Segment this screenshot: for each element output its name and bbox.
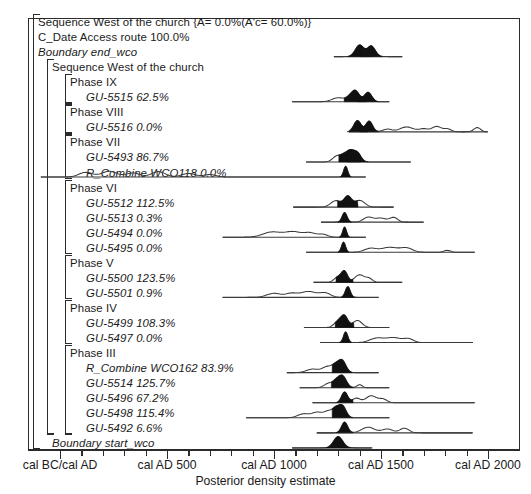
distribution-hpd-boundary-start-0	[325, 437, 351, 448]
distribution-outline-gu-5501	[223, 287, 378, 298]
distribution-hpd-gu-5495-0	[338, 242, 349, 252]
distribution-hpd-gu-5492-0	[336, 422, 353, 433]
distribution-hpd-gu-5516-1	[360, 121, 379, 132]
x-tick-minor-1600	[402, 450, 403, 456]
x-tick-label-0: cal BC/cal AD	[23, 458, 98, 472]
distribution-hpd-gu-5494-0	[339, 227, 349, 237]
x-tick-minor-600	[188, 450, 189, 456]
x-tick-minor-1700	[424, 450, 425, 456]
distribution-hpd-gu-5512-0	[338, 196, 359, 207]
x-tick-label-2000: cal AD 2000	[455, 458, 521, 472]
distribution-outline-gu-5513	[321, 213, 423, 223]
distribution-outline-rcombine-wco118	[41, 166, 366, 177]
x-tick-minor-400	[146, 450, 147, 456]
x-tick-minor-1900	[467, 450, 468, 456]
x-tick-minor-1800	[445, 450, 446, 456]
x-axis-title: Posterior density estimate	[0, 474, 531, 488]
distribution-outline-gu-5498	[246, 404, 389, 417]
distribution-hpd-gu-5499-0	[335, 315, 354, 328]
x-tick-minor-800	[231, 450, 232, 456]
x-tick-label-1000: cal AD 1000	[241, 458, 307, 472]
x-tick-minor-700	[210, 450, 211, 456]
x-tick-minor-1100	[295, 450, 296, 456]
x-tick-minor-900	[253, 450, 254, 456]
distribution-hpd-boundary-end-1	[360, 45, 382, 57]
x-tick-label-1500: cal AD 1500	[348, 458, 414, 472]
distribution-outline-gu-5500	[314, 271, 402, 283]
distribution-hpd-gu-5515-1	[358, 92, 379, 101]
distribution-hpd-rcombine-wco118-0	[340, 166, 351, 177]
distribution-hpd-gu-5513-0	[338, 213, 352, 223]
distribution-outline-gu-5495	[306, 242, 474, 252]
x-tick-minor-300	[124, 450, 125, 456]
x-tick-minor-1400	[360, 450, 361, 456]
x-tick-minor-1200	[317, 450, 318, 456]
distribution-outline-gu-5496	[313, 392, 475, 403]
distribution-hpd-gu-5497-0	[340, 332, 352, 343]
x-tick-label-500: cal AD 500	[138, 458, 197, 472]
distribution-hpd-gu-5500-0	[336, 270, 353, 282]
x-tick-minor-200	[103, 450, 104, 456]
chart-canvas: Sequence West of the church {A= 0.0%(A'c…	[0, 0, 531, 494]
distribution-hpd-gu-5496-0	[336, 392, 353, 403]
distribution-hpd-gu-5501-0	[341, 287, 355, 298]
posterior-distribution-layer	[0, 0, 531, 494]
distribution-hpd-gu-5514-0	[331, 375, 353, 388]
x-tick-minor-1300	[338, 450, 339, 456]
x-tick-minor-100	[81, 450, 82, 456]
